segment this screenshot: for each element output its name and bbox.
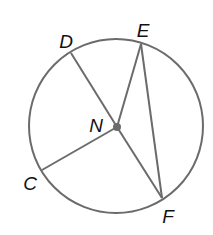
- chord-ef: [141, 44, 162, 198]
- label-f: F: [162, 207, 174, 226]
- center-point-n: [113, 123, 121, 131]
- radius-nc: [42, 127, 117, 170]
- label-n: N: [89, 116, 103, 135]
- label-d: D: [59, 32, 73, 51]
- circle-diagram: [0, 0, 213, 235]
- label-e: E: [137, 21, 150, 40]
- radius-nf: [117, 127, 162, 198]
- radius-ne: [117, 44, 141, 127]
- label-c: C: [23, 174, 37, 193]
